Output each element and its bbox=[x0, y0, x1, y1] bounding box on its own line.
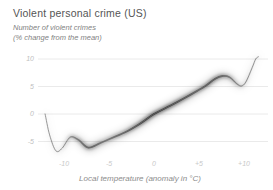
y-tick-label: 10 bbox=[26, 55, 34, 62]
uncertainty-band bbox=[45, 57, 258, 152]
x-tick-label: -10 bbox=[59, 160, 69, 167]
y-tick-label: 0 bbox=[30, 110, 34, 117]
y-tick-label: -5 bbox=[28, 138, 34, 145]
x-tick-label: 0 bbox=[152, 160, 156, 167]
chart-panel: Violent personal crime (US) Number of vi… bbox=[0, 0, 273, 190]
crime-temperature-chart: 1050-5-10-50+5+10 Local temperature (ano… bbox=[0, 0, 273, 190]
x-tick-label: -5 bbox=[106, 160, 112, 167]
x-tick-label: +5 bbox=[195, 160, 203, 167]
x-tick-label: +10 bbox=[238, 160, 250, 167]
x-axis-title: Local temperature (anomaly in °C) bbox=[79, 174, 201, 183]
y-tick-label: 5 bbox=[30, 83, 34, 90]
